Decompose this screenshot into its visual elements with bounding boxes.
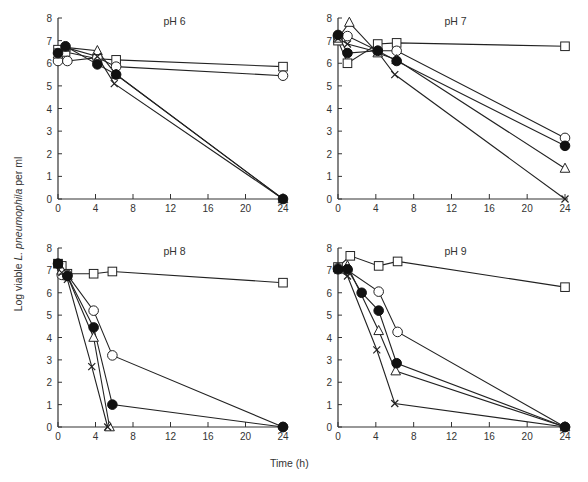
chart-panel-ph-6: 01234567804812162024pH 6: [46, 13, 289, 214]
cross-marker-icon: [111, 80, 118, 87]
y-axis-label-prefix: Log viable: [12, 261, 24, 312]
filled-circle-marker-icon: [333, 30, 343, 40]
panel-title: pH 6: [163, 15, 185, 27]
y-tick-label: 5: [326, 310, 332, 321]
x-tick-label: 24: [559, 431, 571, 442]
y-tick-label: 6: [46, 58, 52, 69]
y-tick-label: 8: [326, 13, 332, 24]
open-square-marker-icon: [561, 283, 570, 292]
y-tick-label: 6: [326, 58, 332, 69]
cross-marker-icon: [344, 41, 351, 48]
x-tick-label: 4: [93, 203, 99, 214]
y-tick-label: 7: [326, 265, 332, 276]
panel-title: pH 9: [444, 245, 466, 257]
x-tick-label: 4: [373, 431, 379, 442]
x-tick-label: 4: [93, 431, 99, 442]
filled-circle-marker-icon: [392, 358, 402, 368]
x-tick-label: 20: [522, 203, 534, 214]
filled-square-marker-icon: [54, 259, 63, 268]
y-tick-label: 4: [46, 333, 52, 344]
x-tick-label: 24: [559, 203, 571, 214]
y-tick-label: 1: [46, 400, 52, 411]
x-tick-label: 16: [484, 203, 496, 214]
series-line-filled-circle: [58, 264, 283, 427]
filled-circle-marker-icon: [560, 422, 570, 432]
x-axis-label: Time (h): [270, 457, 309, 469]
open-circle-marker-icon: [89, 306, 99, 316]
filled-circle-marker-icon: [89, 323, 99, 333]
open-triangle-marker-icon: [560, 163, 570, 172]
series-line-open-square: [338, 41, 565, 64]
filled-circle-marker-icon: [560, 141, 570, 151]
x-tick-label: 20: [240, 203, 252, 214]
series-line-open-triangle: [338, 266, 565, 427]
open-triangle-marker-icon: [345, 17, 355, 26]
chart-panel-ph-9: 01234567804812162024pH 9: [326, 243, 571, 442]
series-line-cross: [58, 47, 283, 199]
series-line-open-circle: [62, 275, 283, 427]
open-square-marker-icon: [89, 269, 98, 278]
panel-title: pH 8: [163, 245, 185, 257]
y-tick-label: 0: [46, 422, 52, 433]
open-square-marker-icon: [561, 42, 570, 51]
filled-circle-marker-icon: [343, 264, 353, 274]
cross-marker-icon: [88, 363, 95, 370]
filled-circle-marker-icon: [343, 48, 353, 58]
x-tick-label: 16: [484, 431, 496, 442]
y-tick-label: 0: [326, 422, 332, 433]
y-tick-label: 4: [326, 104, 332, 115]
open-triangle-marker-icon: [89, 332, 99, 341]
x-tick-label: 12: [446, 203, 458, 214]
open-circle-marker-icon: [374, 287, 384, 297]
filled-circle-marker-icon: [357, 288, 367, 298]
series-line-open-square: [338, 256, 565, 287]
open-circle-marker-icon: [108, 351, 118, 361]
y-tick-label: 0: [326, 194, 332, 205]
filled-circle-marker-icon: [61, 41, 71, 51]
y-tick-label: 1: [326, 400, 332, 411]
x-tick-label: 8: [411, 431, 417, 442]
x-tick-label: 4: [373, 203, 379, 214]
chart-panel-ph-8: 01234567804812162024pH 8: [46, 243, 289, 442]
x-tick-label: 24: [277, 203, 289, 214]
x-tick-label: 24: [277, 431, 289, 442]
y-tick-label: 2: [46, 149, 52, 160]
x-tick-label: 0: [55, 431, 61, 442]
chart-panel-ph-7: 01234567804812162024pH 7: [326, 13, 571, 214]
panel-title: pH 7: [444, 15, 466, 27]
y-tick-label: 5: [326, 81, 332, 92]
y-tick-label: 3: [326, 355, 332, 366]
series-line-open-circle: [338, 268, 565, 427]
y-tick-label: 5: [46, 81, 52, 92]
cross-marker-icon: [391, 71, 398, 78]
filled-circle-marker-icon: [392, 56, 402, 66]
x-tick-label: 20: [522, 431, 534, 442]
x-tick-label: 12: [165, 431, 177, 442]
series-line-open-triangle: [62, 270, 110, 427]
y-tick-label: 2: [326, 149, 332, 160]
filled-circle-marker-icon: [108, 400, 118, 410]
filled-circle-marker-icon: [53, 48, 63, 58]
y-axis-label-suffix: per ml: [12, 157, 24, 189]
series-line-cross: [338, 38, 565, 199]
x-tick-label: 16: [202, 431, 214, 442]
open-square-marker-icon: [279, 62, 288, 71]
open-circle-marker-icon: [343, 31, 353, 41]
open-circle-marker-icon: [63, 56, 73, 66]
y-tick-label: 7: [46, 265, 52, 276]
y-tick-label: 3: [46, 126, 52, 137]
open-square-marker-icon: [393, 257, 402, 266]
y-tick-label: 3: [326, 126, 332, 137]
y-tick-label: 4: [46, 104, 52, 115]
series-line-filled-circle: [338, 269, 565, 427]
y-tick-label: 6: [326, 288, 332, 299]
y-tick-label: 1: [46, 171, 52, 182]
chart-grid: 01234567804812162024pH 60123456780481216…: [0, 0, 588, 482]
y-tick-label: 8: [326, 243, 332, 254]
filled-circle-marker-icon: [373, 46, 383, 56]
figure: 01234567804812162024pH 60123456780481216…: [0, 0, 588, 482]
x-tick-label: 0: [55, 203, 61, 214]
y-tick-label: 4: [326, 333, 332, 344]
y-tick-label: 1: [326, 171, 332, 182]
x-tick-label: 16: [202, 203, 214, 214]
